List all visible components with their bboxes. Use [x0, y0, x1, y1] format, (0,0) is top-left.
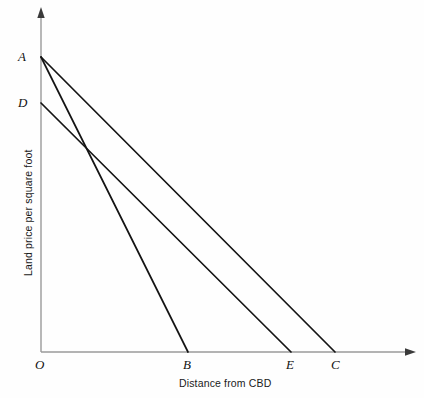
point-label-d: D: [18, 96, 27, 109]
point-label-o: O: [35, 358, 44, 371]
x-axis-arrowhead: [405, 348, 416, 355]
bid-rent-chart: Land price per square foot Distance from…: [0, 0, 424, 398]
point-label-a: A: [18, 50, 26, 63]
point-label-c: C: [331, 358, 340, 371]
y-axis-title: Land price per square foot: [22, 150, 34, 276]
chart-canvas: [0, 0, 424, 398]
point-label-e: E: [286, 358, 294, 371]
y-axis-arrowhead: [37, 7, 44, 18]
curve-a-c: [41, 57, 335, 352]
x-axis-title: Distance from CBD: [179, 377, 271, 389]
curve-d-e: [41, 103, 291, 352]
point-label-b: B: [183, 358, 191, 371]
curve-a-b: [41, 57, 188, 352]
